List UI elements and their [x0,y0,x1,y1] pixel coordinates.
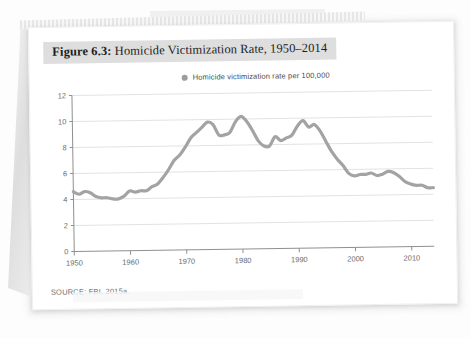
line-chart: 024681012 1950196019701980199020002010 [44,84,439,278]
svg-text:1960: 1960 [122,258,139,267]
chart-canvas: 024681012 1950196019701980199020002010 [44,84,439,278]
svg-text:2000: 2000 [347,254,364,263]
svg-text:2: 2 [64,221,68,230]
data-series-line [72,114,433,200]
svg-text:10: 10 [58,117,66,126]
figure-content: Figure 6.3: Homicide Victimization Rate,… [29,22,457,309]
grid-lines [72,90,434,251]
svg-text:8: 8 [62,143,66,152]
figure-number-label: Figure 6.3: [52,44,111,59]
photo-backdrop: Figure 6.3: Homicide Victimization Rate,… [0,0,471,339]
svg-text:1990: 1990 [291,255,308,264]
svg-text:1950: 1950 [66,258,83,267]
y-axis: 024681012 [58,91,75,256]
figure-page: Figure 6.3: Homicide Victimization Rate,… [28,21,458,310]
svg-text:6: 6 [63,169,67,178]
svg-text:12: 12 [58,91,66,100]
chart-legend: Homicide victimization rate per 100,000 [44,69,438,84]
figure-title: Figure 6.3: Homicide Victimization Rate,… [43,38,336,64]
svg-text:4: 4 [63,195,67,204]
legend-marker-icon [182,74,188,80]
x-axis: 1950196019701980199020002010 [66,246,420,267]
svg-text:0: 0 [64,247,68,256]
svg-text:1980: 1980 [235,256,252,265]
svg-text:2010: 2010 [403,253,420,262]
figure-title-text: Homicide Victimization Rate, 1950–2014 [111,41,327,58]
legend-label: Homicide victimization rate per 100,000 [193,71,330,82]
svg-text:1970: 1970 [179,257,196,266]
